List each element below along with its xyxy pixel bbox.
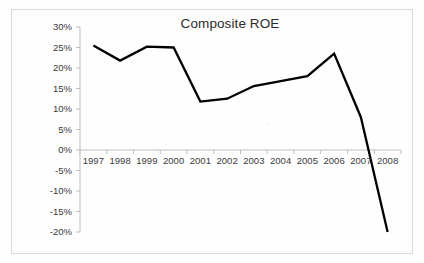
y-axis-tick-label: -10% xyxy=(50,185,73,196)
x-axis-tick-label: 2000 xyxy=(163,155,184,166)
y-axis-tick-label: 5% xyxy=(58,124,72,135)
x-axis-tick-label: 2005 xyxy=(297,155,318,166)
y-axis-tick-group xyxy=(76,27,80,232)
x-axis-tick-label: 2008 xyxy=(377,155,398,166)
y-axis-tick-label: 25% xyxy=(53,42,73,53)
x-axis-tick-label: 1997 xyxy=(83,155,104,166)
x-axis-tick-label: 2007 xyxy=(350,155,371,166)
y-axis-tick-label: -20% xyxy=(50,226,73,237)
y-axis-tick-label: 0% xyxy=(58,144,72,155)
y-axis-tick-label: 20% xyxy=(53,62,73,73)
y-axis-tick-label: 15% xyxy=(53,83,73,94)
x-axis-tick-label: 1999 xyxy=(136,155,157,166)
x-axis-tick-label: 1998 xyxy=(110,155,131,166)
x-axis-tick-label: 2003 xyxy=(243,155,264,166)
y-axis-tick-label: 30% xyxy=(53,21,73,32)
x-axis-tick-label: 2004 xyxy=(270,155,291,166)
y-axis-labels: 30%25%20%15%10%5%0%-5%-10%-15%-20% xyxy=(50,21,73,237)
data-series-line xyxy=(93,45,387,232)
x-axis-tick-label: 2002 xyxy=(217,155,238,166)
y-axis-tick-label: -15% xyxy=(50,206,73,217)
x-axis-tick-label: 2001 xyxy=(190,155,211,166)
x-axis-tick-label: 2006 xyxy=(324,155,345,166)
chart-card: Composite ROE 30%25%20%15%10%5%0%-5%-10%… xyxy=(0,0,424,263)
x-axis-tick-group xyxy=(80,150,401,154)
x-axis-labels: 1997199819992000200120022003200420052006… xyxy=(83,155,398,166)
y-axis-tick-label: -5% xyxy=(55,165,72,176)
line-chart-svg: 30%25%20%15%10%5%0%-5%-10%-15%-20% 19971… xyxy=(0,0,424,263)
y-axis-tick-label: 10% xyxy=(53,103,73,114)
